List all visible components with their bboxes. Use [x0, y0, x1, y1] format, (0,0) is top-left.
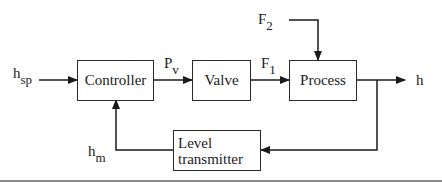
hm-sub: m [96, 150, 106, 165]
valve-label: Valve [204, 72, 238, 89]
f2-sub: 2 [266, 18, 273, 33]
setpoint-label: hsp [13, 66, 32, 81]
controller-label: Controller [85, 72, 147, 89]
process-block: Process [289, 60, 357, 101]
setpoint-base: h [13, 65, 21, 81]
process-label: Process [300, 72, 346, 89]
hm-base: h [88, 143, 96, 159]
level-transmitter-block: Level transmitter [173, 130, 261, 171]
pv-sub: v [172, 62, 179, 77]
level-transmitter-label-line1: Level [178, 135, 212, 151]
output-label: h [416, 73, 424, 88]
arrow-disturbance-to-process [289, 20, 318, 60]
bottom-divider [0, 180, 442, 182]
level-transmitter-label-line2: transmitter [178, 151, 243, 167]
f1-sub: 1 [269, 62, 276, 77]
measured-label: hm [88, 144, 106, 159]
valve-block: Valve [192, 60, 251, 101]
setpoint-sub: sp [21, 72, 33, 87]
arrow-transmitter-to-controller [116, 100, 173, 150]
h-base: h [416, 72, 424, 88]
disturbance-flow-label: F2 [258, 12, 273, 27]
controller-block: Controller [77, 60, 154, 101]
controller-output-label: Pv [164, 56, 179, 71]
valve-flow-label: F1 [261, 56, 276, 71]
